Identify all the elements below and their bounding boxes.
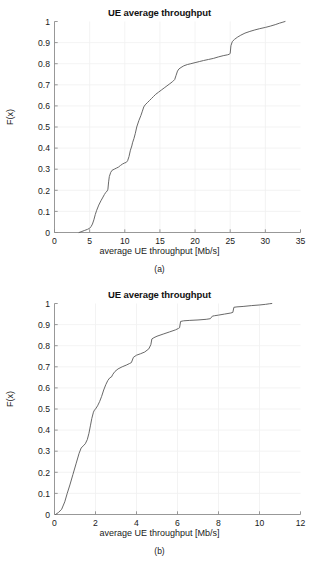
y-tick-label: 0.1	[38, 489, 50, 499]
figure-container: UE average throughput 0510152025303500.1…	[0, 0, 319, 565]
y-tick-label: 0.3	[38, 446, 50, 456]
y-tick-label: 0.6	[38, 383, 50, 393]
x-tick-label: 15	[155, 236, 165, 246]
y-tick-label: 0.6	[38, 101, 50, 111]
panel-caption-a: (a)	[0, 264, 319, 274]
x-tick-label: 6	[175, 518, 180, 528]
y-tick-label: 0.7	[38, 362, 50, 372]
x-tick-label: 12	[296, 518, 306, 528]
x-tick-label: 2	[93, 518, 98, 528]
x-tick-label: 4	[134, 518, 139, 528]
y-tick-label: 0.7	[38, 80, 50, 90]
y-tick-label: 0.5	[38, 404, 50, 414]
x-tick-label: 0	[52, 518, 57, 528]
plot-area-b: 02468101200.10.20.30.40.50.60.70.80.91	[0, 282, 319, 565]
y-tick-label: 0.5	[38, 122, 50, 132]
x-tick-label: 30	[261, 236, 271, 246]
x-tick-label: 20	[190, 236, 200, 246]
panel-caption-b: (b)	[0, 546, 319, 556]
y-tick-label: 1	[45, 17, 50, 27]
y-tick-label: 0.8	[38, 59, 50, 69]
gridlines-b	[55, 304, 301, 515]
y-tick-label: 0.8	[38, 341, 50, 351]
x-axis-label-b: average UE throughput [Mb/s]	[0, 528, 319, 538]
y-tick-label: 0.3	[38, 164, 50, 174]
plot-area-a: 0510152025303500.10.20.30.40.50.60.70.80…	[0, 0, 319, 283]
y-tick-label: 1	[45, 299, 50, 309]
y-tick-label: 0.2	[38, 186, 50, 196]
chart-panel-a: UE average throughput 0510152025303500.1…	[0, 0, 319, 283]
x-axis-label-a: average UE throughput [Mb/s]	[0, 246, 319, 256]
y-tick-label: 0.9	[38, 320, 50, 330]
x-tick-label: 10	[120, 236, 130, 246]
x-tick-label: 0	[52, 236, 57, 246]
x-tick-label: 5	[87, 236, 92, 246]
x-tick-label: 10	[255, 518, 265, 528]
x-tick-label: 8	[216, 518, 221, 528]
y-axis-label-a: F(x)	[5, 93, 15, 141]
y-axis-label-b: F(x)	[5, 375, 15, 423]
y-tick-label: 0.9	[38, 38, 50, 48]
y-tick-label: 0.1	[38, 207, 50, 217]
y-tick-label: 0.4	[38, 425, 50, 435]
chart-panel-b: UE average throughput 02468101200.10.20.…	[0, 282, 319, 565]
y-tick-label: 0	[45, 510, 50, 520]
x-tick-label: 35	[296, 236, 306, 246]
y-tick-label: 0	[45, 228, 50, 238]
y-tick-label: 0.4	[38, 143, 50, 153]
y-tick-label: 0.2	[38, 468, 50, 478]
gridlines-a	[55, 22, 301, 233]
x-tick-label: 25	[225, 236, 235, 246]
